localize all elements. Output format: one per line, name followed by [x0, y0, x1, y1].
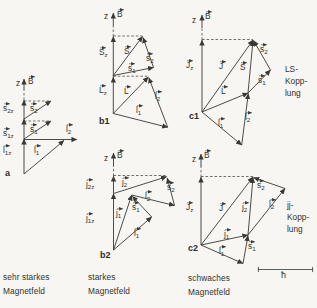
c1-l1-label: l1	[218, 118, 224, 129]
a-l1z-label: l1z	[3, 145, 11, 156]
c2-j2-vector	[248, 178, 253, 235]
c1-J-label: J	[219, 61, 223, 71]
a-l1-vector	[24, 141, 64, 175]
b1-L-label: L	[124, 86, 129, 96]
a-l2-label: l2	[66, 124, 72, 135]
panel-tag-a: a	[5, 168, 11, 178]
c2-l2-label: l2	[269, 199, 275, 210]
b1-l1-label: l1	[136, 105, 142, 116]
panel-tag-c1: c1	[189, 111, 199, 121]
c2-j1-label: j1	[223, 229, 230, 240]
caption-line: schwaches	[188, 272, 230, 286]
a-z-axis-label: z	[16, 78, 20, 88]
c1-s2-label: s2	[260, 44, 268, 55]
c1-L-label: L	[221, 86, 226, 96]
a-s1-label: s1	[30, 124, 38, 135]
a-s2z-label: s2z	[3, 103, 14, 114]
caption-weak-field: schwaches Magnetfeld	[188, 272, 230, 299]
panel-tag-b2: b2	[100, 250, 111, 260]
c1-b-field-label: B	[205, 11, 211, 21]
caption-very-strong-field: sehr starkes Magnetfeld	[3, 271, 49, 298]
panel-a: zBs2zs1zl1zs2s1l2l1a	[3, 76, 77, 179]
c1-z-axis-label: z	[192, 15, 196, 25]
c1-l2-label: l2	[245, 112, 251, 123]
b2-j1-label: j1	[115, 208, 122, 219]
b1-Sz-label: Sz	[99, 47, 108, 58]
c2-Jz-label: Jz	[186, 202, 193, 213]
b2-l2-label: l2	[145, 191, 151, 202]
vector-coupling-figure: zBs2zs1zl1zs2s1l2l1azBSzLzSs1s2Ll1l2b1zB…	[0, 0, 317, 308]
b1-l2-vector	[149, 78, 168, 128]
a-l1-label: l1	[34, 145, 40, 156]
b2-b-field-label: B	[117, 150, 123, 160]
panel-c1: zBJzJSs2s1Ll2l1c1	[186, 11, 271, 146]
ls-coupling-label: LS- Kopp- lung	[285, 63, 307, 100]
a-b-field-label: B	[28, 76, 34, 86]
panel-b1: zBSzLzSs1s2Ll1l2b1	[99, 9, 168, 128]
b1-l2-label: l2	[155, 91, 161, 102]
vector-diagram-canvas: zBs2zs1zl1zs2s1l2l1azBSzLzSs1s2Ll1l2b1zB…	[0, 0, 317, 308]
caption-line: starkes	[88, 271, 130, 285]
b2-j2-label: j2	[121, 177, 128, 188]
a-s1z-label: s1z	[3, 128, 14, 139]
c2-l2-vector	[248, 189, 285, 236]
c1-S-vector	[248, 41, 253, 94]
hbar-scale-label: ħ	[281, 270, 286, 280]
coupling-line: Kopp-	[285, 75, 307, 87]
c2-l1-label: l1	[219, 246, 225, 257]
b2-s2-label: s2	[167, 182, 175, 193]
panel-b2: zBj2zj1zj2j1l2s2s1l1b2	[85, 150, 175, 261]
coupling-line: lung	[285, 87, 307, 99]
b1-b-field-label: B	[117, 9, 123, 19]
c1-S-label: S	[240, 62, 246, 72]
c2-J-label: J	[219, 203, 223, 213]
c2-b-field-label: B	[204, 150, 210, 160]
b1-L-vector	[113, 77, 148, 114]
panel-c2: zBJzJj2j1s2l2s1l1c2	[186, 150, 285, 264]
b1-Lz-label: Lz	[99, 85, 107, 96]
jj-coupling-label: jj- Kopp- lung	[287, 199, 309, 236]
coupling-line: jj-	[287, 199, 309, 211]
b1-S-label: S	[124, 46, 130, 56]
panel-tag-b1: b1	[99, 116, 110, 126]
b1-s1-label: s1	[128, 63, 136, 74]
coupling-line: LS-	[285, 63, 307, 75]
caption-line: Magnetfeld	[88, 285, 130, 299]
b2-z-axis-label: z	[104, 153, 108, 163]
coupling-line: Kopp-	[287, 211, 309, 223]
b1-z-axis-label: z	[104, 11, 108, 21]
b2-l2-vector	[132, 195, 175, 206]
c2-z-axis-label: z	[192, 154, 196, 164]
coupling-line: lung	[287, 223, 309, 235]
c2-j2-label: j2	[241, 202, 248, 213]
caption-line: Magnetfeld	[188, 286, 230, 300]
c2-s1-label: s1	[248, 241, 256, 252]
b2-j2z-label: j2z	[85, 179, 94, 190]
panel-tag-c2: c2	[188, 243, 198, 253]
caption-strong-field: starkes Magnetfeld	[88, 271, 130, 298]
b2-j1z-label: j1z	[85, 213, 94, 224]
c1-Jz-label: Jz	[186, 60, 193, 71]
caption-line: sehr starkes	[3, 271, 49, 285]
caption-line: Magnetfeld	[3, 285, 49, 299]
a-s2-label: s2	[30, 103, 38, 114]
b1-s2-label: s2	[146, 53, 154, 64]
